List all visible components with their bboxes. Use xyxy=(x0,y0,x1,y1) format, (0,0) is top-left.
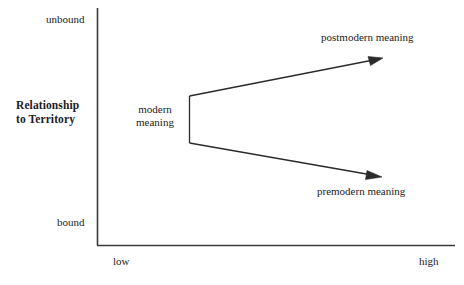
y-axis-tick-unbound: unbound xyxy=(46,13,85,26)
y-axis-tick-bound: bound xyxy=(57,216,85,229)
premodern-arrowhead xyxy=(366,171,383,180)
x-axis-tick-high: high xyxy=(419,255,439,268)
node-label-modern-meaning: modern meaning xyxy=(128,103,182,129)
diagram-canvas: Relationship to Territory unbound bound … xyxy=(0,0,464,285)
postmodern-arrowhead xyxy=(368,57,383,66)
y-axis-title-line2: to Territory xyxy=(16,112,98,126)
postmodern-arrow xyxy=(190,57,384,97)
node-label-postmodern-meaning: postmodern meaning xyxy=(321,31,414,44)
node-label-modern-meaning-line2: meaning xyxy=(128,116,182,129)
x-axis-tick-low: low xyxy=(113,255,130,268)
y-axis-title: Relationship to Territory xyxy=(16,98,98,126)
node-label-modern-meaning-line1: modern xyxy=(128,103,182,116)
premodern-arrow xyxy=(190,143,383,180)
y-axis-title-line1: Relationship xyxy=(16,98,98,112)
node-label-premodern-meaning: premodern meaning xyxy=(317,185,405,198)
